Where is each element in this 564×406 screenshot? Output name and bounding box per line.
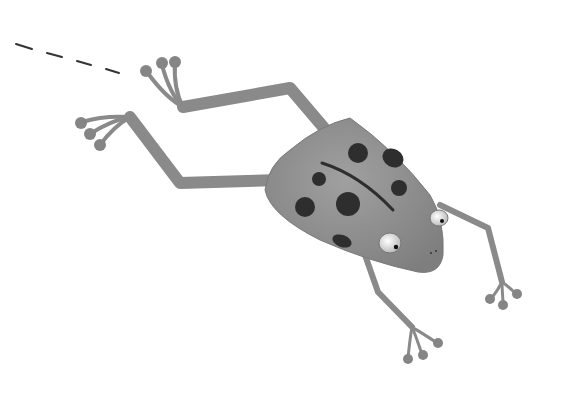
back-toes-lower [75, 117, 106, 151]
eye-left [379, 233, 401, 253]
front-leg-right [440, 205, 516, 304]
eye-right [430, 210, 448, 226]
back-leg-upper [147, 62, 330, 135]
back-leg-lower [82, 117, 280, 183]
frog-illustration [0, 0, 564, 406]
motion-trail [16, 44, 119, 73]
